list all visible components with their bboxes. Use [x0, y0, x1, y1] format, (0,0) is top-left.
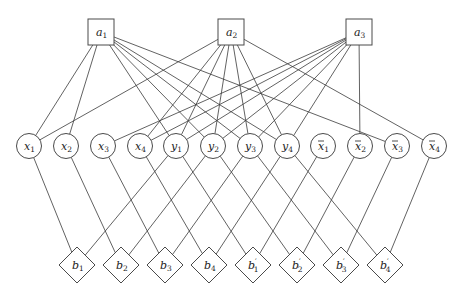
node-x4: x4 [128, 134, 153, 159]
edge-a3-y3 [259, 45, 347, 137]
node-nx1: x1 [311, 134, 336, 159]
edge-y2-b2 [129, 156, 206, 255]
bipartite-reduction-diagram: a1a2a3x1x2x3x4y1y2y3y4x1x2x3x4b1b2b3b4b′… [0, 0, 462, 295]
edge-a1-y4 [114, 40, 276, 140]
edge-y2-bp2 [220, 156, 289, 254]
edge-a1-y3 [114, 42, 240, 138]
node-bp3: b′3 [323, 247, 359, 283]
nodes-layer: a1a2a3x1x2x3x4y1y2y3y4x1x2x3x4b1b2b3b4b′… [17, 19, 447, 283]
edge-nx2-bp2 [303, 157, 354, 253]
edge-y3-bp3 [258, 156, 334, 255]
edge-y1-b1 [85, 156, 168, 256]
node-a2: a2 [218, 19, 244, 45]
node-a3: a3 [346, 19, 372, 45]
edge-a3-y4 [294, 45, 351, 135]
edge-a2-x1 [40, 39, 218, 140]
edge-nx3-bp3 [347, 157, 392, 252]
node-y4: y4 [275, 134, 300, 159]
edge-a3-nx2 [359, 45, 360, 134]
edge-y3-b3 [173, 156, 243, 254]
edge-x2-b2 [71, 157, 115, 252]
edge-x1-b1 [34, 158, 72, 253]
node-x3: x3 [91, 134, 116, 159]
edge-a3-x3 [114, 38, 346, 141]
node-bp2: b′2 [279, 247, 315, 283]
edge-a1-y2 [114, 45, 204, 137]
node-b3: b3 [147, 247, 183, 283]
node-nx4: x4 [422, 134, 447, 159]
node-y3: y3 [238, 134, 263, 159]
node-b2: b2 [103, 247, 139, 283]
node-x1: x1 [17, 134, 42, 159]
node-bp4: b′4 [367, 247, 403, 283]
edge-y4-bp4 [295, 156, 377, 255]
edge-a1-x1 [36, 45, 93, 135]
edge-nx4-bp4 [390, 158, 429, 253]
node-y1: y1 [164, 134, 189, 159]
node-a1: a1 [88, 19, 114, 45]
edge-a3-x4 [151, 39, 346, 140]
edge-a1-y1 [110, 45, 170, 136]
node-b1: b1 [59, 247, 95, 283]
node-nx2: x2 [348, 134, 373, 159]
node-y2: y2 [201, 134, 226, 159]
edge-x4-b4 [146, 157, 202, 254]
edge-y4-b4 [216, 156, 280, 254]
edge-y1-bp1 [183, 156, 246, 254]
node-bp1: b′1 [235, 247, 271, 283]
node-x2: x2 [54, 134, 79, 159]
node-nx3: x3 [385, 134, 410, 159]
edge-a2-nx4 [244, 39, 423, 140]
node-b4: b4 [191, 247, 227, 283]
edge-x3-b3 [109, 157, 159, 253]
edge-a3-y2 [223, 42, 346, 138]
